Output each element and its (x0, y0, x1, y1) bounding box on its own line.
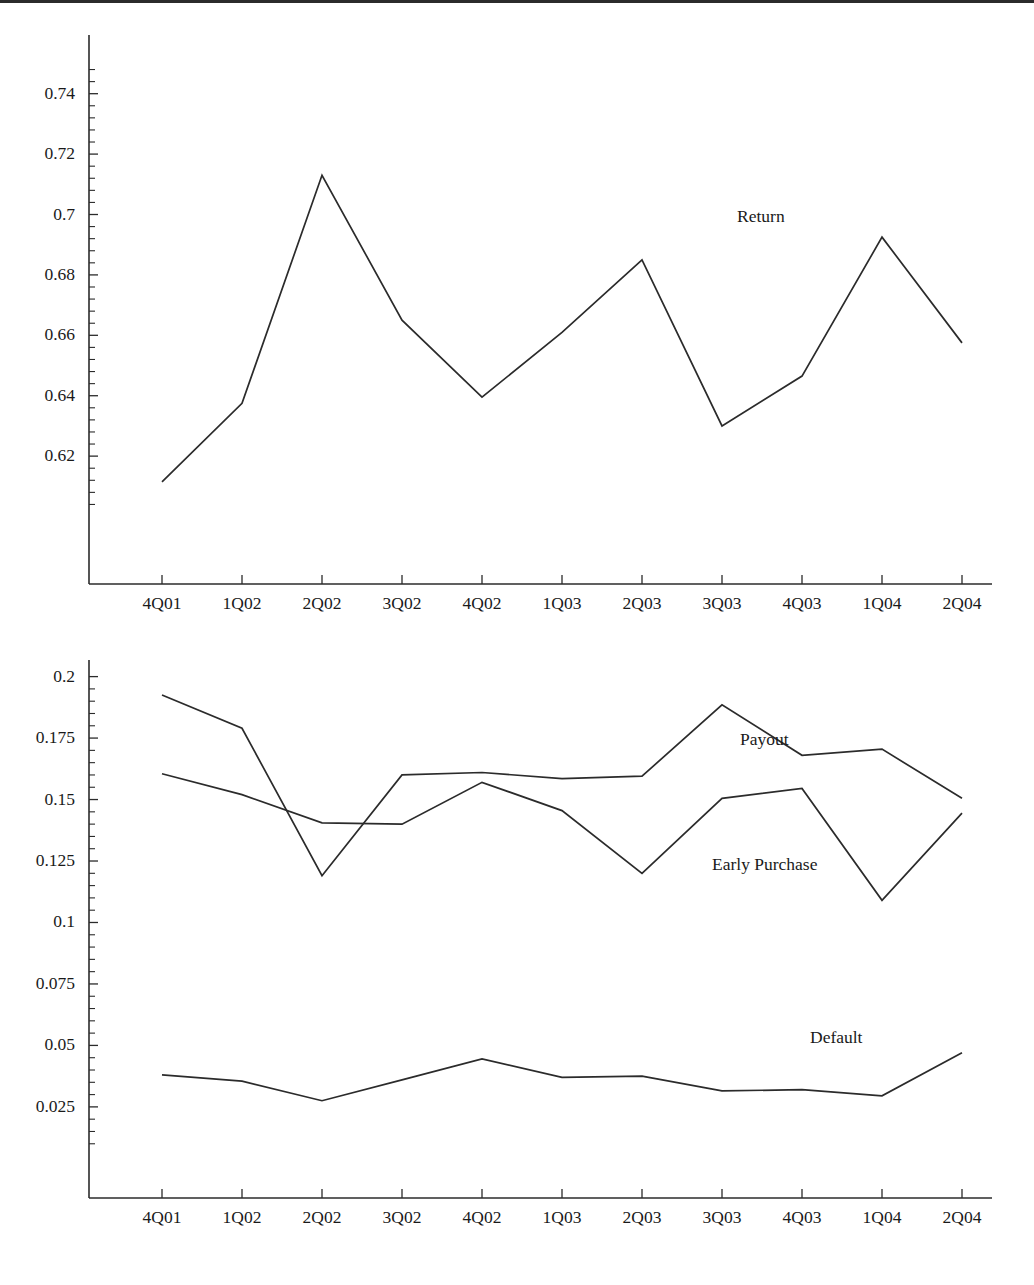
x-tick-label: 3Q02 (383, 595, 422, 613)
series-line-payout (162, 695, 962, 876)
x-tick-label: 4Q02 (463, 595, 502, 613)
x-tick-label: 4Q03 (783, 1209, 822, 1227)
outcomes-chart-canvas (0, 625, 1034, 1285)
series-annotation-default: Default (810, 1029, 862, 1047)
y-tick-label: 0.125 (0, 852, 75, 870)
x-tick-label: 2Q04 (943, 1209, 982, 1227)
x-tick-label: 1Q03 (543, 595, 582, 613)
series-line-early-purchase (162, 774, 962, 901)
y-tick-label: 0.64 (0, 387, 75, 405)
x-tick-label: 3Q03 (703, 1209, 742, 1227)
y-tick-label: 0.68 (0, 266, 75, 284)
chart-page: 0.740.720.70.680.660.640.62 4Q011Q022Q02… (0, 0, 1034, 1285)
y-tick-label: 0.05 (0, 1037, 75, 1055)
y-tick-label: 0.15 (0, 791, 75, 809)
x-tick-label: 2Q02 (303, 595, 342, 613)
x-tick-label: 4Q03 (783, 595, 822, 613)
x-tick-label: 2Q02 (303, 1209, 342, 1227)
x-tick-label: 2Q03 (623, 595, 662, 613)
x-tick-label: 3Q02 (383, 1209, 422, 1227)
y-tick-label: 0.025 (0, 1098, 75, 1116)
y-tick-label: 0.62 (0, 447, 75, 465)
y-tick-label: 0.72 (0, 145, 75, 163)
x-tick-label: 1Q02 (223, 595, 262, 613)
x-tick-label: 2Q04 (943, 595, 982, 613)
return-chart-panel: 0.740.720.70.680.660.640.62 4Q011Q022Q02… (0, 0, 1034, 625)
y-tick-label: 0.175 (0, 729, 75, 747)
x-tick-label: 2Q03 (623, 1209, 662, 1227)
series-line-default (162, 1053, 962, 1101)
series-annotation-payout: Payout (740, 731, 789, 749)
x-tick-label: 1Q02 (223, 1209, 262, 1227)
x-tick-label: 1Q03 (543, 1209, 582, 1227)
y-tick-label: 0.075 (0, 975, 75, 993)
outcomes-chart-panel: 0.20.1750.150.1250.10.0750.050.025 4Q011… (0, 625, 1034, 1285)
y-tick-label: 0.74 (0, 85, 75, 103)
x-tick-label: 1Q04 (863, 1209, 902, 1227)
series-annotation-early-purchase: Early Purchase (712, 856, 817, 874)
y-tick-label: 0.2 (0, 668, 75, 686)
y-tick-label: 0.7 (0, 206, 75, 224)
y-tick-label: 0.1 (0, 914, 75, 932)
return-chart-canvas (0, 0, 1034, 625)
x-tick-label: 4Q01 (143, 595, 182, 613)
series-annotation-return: Return (737, 208, 785, 226)
y-tick-label: 0.66 (0, 327, 75, 345)
x-tick-label: 1Q04 (863, 595, 902, 613)
x-tick-label: 4Q01 (143, 1209, 182, 1227)
x-tick-label: 3Q03 (703, 595, 742, 613)
x-tick-label: 4Q02 (463, 1209, 502, 1227)
series-line-return (162, 175, 962, 482)
